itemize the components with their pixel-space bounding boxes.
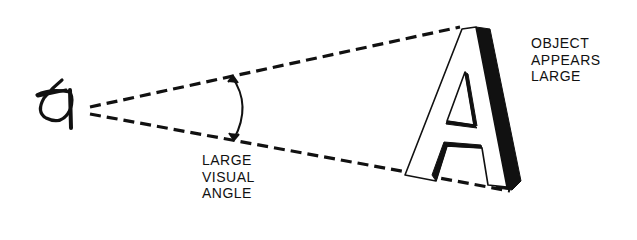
upper-sight-line [90,27,460,107]
eye-icon [37,80,72,128]
object-label-line-2: APPEARS [531,52,601,69]
visual-angle-label-line-3: ANGLE [202,185,255,202]
object-letter-a [405,27,521,190]
object-label-line-1: OBJECT [531,35,601,52]
visual-angle-label-line-2: VISUAL [202,169,255,186]
visual-angle-label-line-1: LARGE [202,152,255,169]
object-label-line-3: LARGE [531,68,601,85]
visual-angle-arc [228,76,243,140]
visual-angle-label: LARGE VISUAL ANGLE [202,152,255,202]
object-label: OBJECT APPEARS LARGE [531,35,601,85]
